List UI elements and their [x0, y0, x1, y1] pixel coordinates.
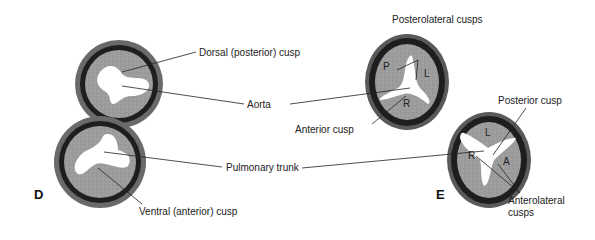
cusp-letter-p: P: [383, 61, 390, 72]
panel-label-e: E: [436, 187, 445, 202]
cusp-letter-a: A: [503, 156, 510, 167]
cusp-letter-r-aorta: R: [403, 98, 410, 109]
label-anterolateral-line1: Anterolateral: [508, 195, 565, 206]
label-aorta: Aorta: [247, 99, 271, 110]
label-posterolateral-cusps: Posterolateral cusps: [392, 14, 483, 25]
label-posterior-cusp: Posterior cusp: [498, 95, 562, 106]
panel-d-aorta-vessel: [75, 40, 163, 128]
diagram-canvas: [0, 0, 595, 240]
label-anterior-cusp: Anterior cusp: [295, 124, 354, 135]
panel-label-d: D: [34, 187, 43, 202]
cusp-letter-l-aorta: L: [424, 68, 430, 79]
label-pulmonary-trunk: Pulmonary trunk: [226, 162, 299, 173]
panel-d-pulmonary-vessel: [54, 116, 146, 208]
panel-e-aorta-vessel: [365, 34, 449, 130]
label-anterolateral-line2: cusps: [508, 207, 534, 218]
cusp-letter-r-pulmonary: R: [468, 150, 475, 161]
cusp-letter-l-pulmonary: L: [485, 127, 491, 138]
label-dorsal-posterior-cusp: Dorsal (posterior) cusp: [199, 47, 300, 58]
label-ventral-anterior-cusp: Ventral (anterior) cusp: [139, 206, 237, 217]
